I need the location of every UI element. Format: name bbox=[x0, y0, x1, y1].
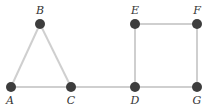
node-C bbox=[66, 82, 76, 92]
edges-group bbox=[11, 24, 197, 87]
node-F bbox=[192, 19, 202, 29]
node-label-D: D bbox=[130, 94, 140, 107]
node-B bbox=[35, 19, 45, 29]
node-G bbox=[192, 82, 202, 92]
node-label-A: A bbox=[5, 94, 14, 107]
node-A bbox=[6, 82, 16, 92]
node-label-E: E bbox=[130, 4, 139, 17]
node-label-F: F bbox=[192, 4, 201, 17]
labels-group: ABCDEFG bbox=[5, 4, 202, 107]
node-E bbox=[130, 19, 140, 29]
graph-diagram: ABCDEFG bbox=[0, 0, 209, 108]
node-label-C: C bbox=[67, 94, 76, 107]
node-label-B: B bbox=[35, 4, 44, 17]
edge-B-C bbox=[40, 24, 71, 87]
node-label-G: G bbox=[193, 94, 202, 107]
nodes-group bbox=[6, 19, 202, 92]
node-D bbox=[130, 82, 140, 92]
edge-A-B bbox=[11, 24, 40, 87]
graph-canvas: ABCDEFG bbox=[0, 0, 209, 108]
